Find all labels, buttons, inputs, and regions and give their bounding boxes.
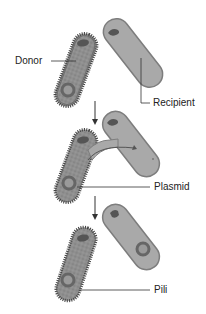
recipient-cell-stage-3 (97, 199, 164, 275)
label-pili: Pili (154, 284, 167, 295)
plasmid-icon (62, 274, 74, 286)
label-recipient: Recipient (153, 97, 195, 108)
plasmid-icon (62, 84, 74, 96)
recipient-cell-stage-1 (98, 13, 168, 92)
conjugation-diagram (0, 0, 206, 314)
label-donor: Donor (15, 55, 42, 66)
label-plasmid: Plasmid (154, 181, 190, 192)
arrow-down-icon (92, 101, 98, 125)
donor-cell-stage-3 (53, 224, 99, 304)
donor-cell-stage-2 (52, 126, 101, 206)
plasmid-icon (137, 243, 149, 255)
pili-icon (53, 224, 99, 304)
plasmid-icon (63, 177, 75, 189)
arrow-down-icon (92, 196, 98, 220)
donor-cell-stage-1 (52, 30, 101, 110)
